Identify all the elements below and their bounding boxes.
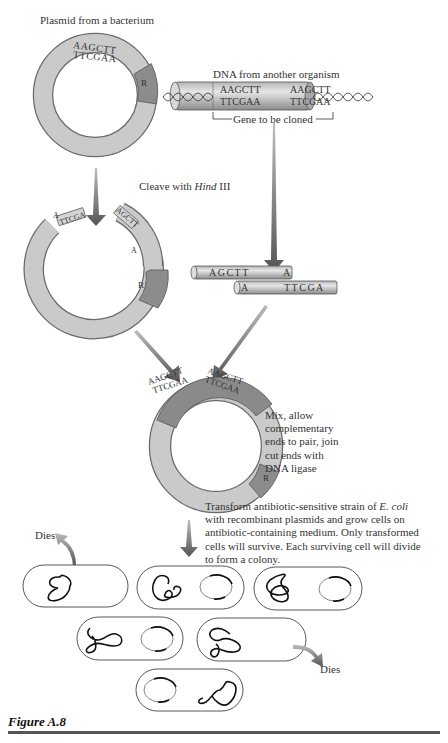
foreign-seq-right-top: AAGCTT: [290, 84, 331, 96]
gene-to-clone-label: Gene to be cloned: [233, 113, 313, 126]
foreign-seq-left-bottom: TTCGAA: [220, 96, 261, 108]
fragment-seq-top: AGCTT: [209, 267, 250, 279]
cell-3: [254, 567, 362, 610]
foreign-seq-left-top: AAGCTT: [220, 84, 261, 96]
fragment-seq-bottom: TTCGA: [284, 282, 325, 294]
plasmid-title: Plasmid from a bacterium: [40, 14, 154, 27]
foreign-seq-right-bottom: TTCGAA: [290, 96, 331, 108]
cell-5: [197, 618, 306, 661]
cell-1: [23, 565, 128, 607]
mix-instructions: Mix, allow complementary ends to pair, j…: [265, 409, 339, 475]
arrow-down-icon: [86, 168, 106, 226]
caption-rule: [8, 731, 440, 734]
fragment-top-end: A: [283, 267, 290, 279]
resistance-label: R: [138, 280, 144, 290]
cleave-label: Cleave with Hind III: [139, 180, 230, 193]
dies-label-1: Dies: [35, 529, 55, 542]
cell-2: [137, 566, 244, 609]
transform-instructions: Transform antibiotic-sensitive strain of…: [205, 500, 445, 566]
fragment-bottom-start: A: [241, 282, 248, 294]
resistance-label: R: [141, 78, 147, 88]
cell-6: [136, 669, 243, 711]
arrow-down-icon: [264, 123, 284, 272]
figure-caption: Figure A.8: [8, 714, 66, 730]
recombinant-plasmid: [157, 377, 279, 502]
cut-right-overhang: A: [131, 246, 137, 255]
foreign-dna-title: DNA from another organism: [213, 68, 340, 81]
dies-arrow-icon: [55, 533, 76, 566]
cell-4: [77, 617, 183, 660]
arrow-down-icon: [180, 520, 198, 557]
dies-label-2: Dies: [320, 663, 340, 676]
cut-plasmid: [34, 205, 169, 329]
